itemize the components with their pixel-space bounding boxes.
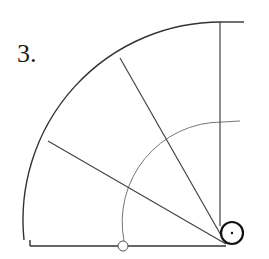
hinge-circle-icon: [118, 241, 128, 251]
pivot-dot-icon: [231, 232, 233, 234]
inner-arc: [122, 122, 222, 241]
ray-2: [48, 141, 226, 244]
inner-arc-tail: [222, 121, 240, 122]
geometry-drawing: [0, 0, 269, 259]
diagram-figure: 3.: [0, 0, 269, 259]
outer-arc: [23, 22, 222, 240]
ray-1: [120, 58, 226, 244]
